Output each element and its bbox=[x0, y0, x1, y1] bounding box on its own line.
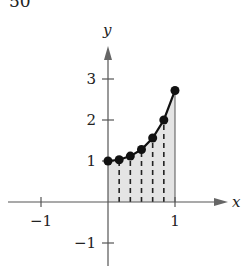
y-tick-label: 2 bbox=[86, 111, 96, 129]
y-tick-label: −1 bbox=[74, 234, 96, 252]
data-point-marker bbox=[115, 155, 124, 164]
data-point-marker bbox=[126, 152, 135, 161]
data-point-marker bbox=[137, 145, 146, 154]
y-axis-arrow-icon bbox=[104, 46, 112, 60]
x-axis-arrow-icon bbox=[214, 198, 228, 206]
y-tick-label: 3 bbox=[86, 70, 96, 88]
x-tick-label: 1 bbox=[170, 212, 180, 230]
y-axis-label: y bbox=[102, 21, 112, 39]
data-point-marker bbox=[104, 157, 113, 166]
chart: xy−11−1123 bbox=[0, 0, 248, 279]
x-tick-label: −1 bbox=[30, 212, 52, 230]
data-point-marker bbox=[159, 116, 168, 125]
x-axis-label: x bbox=[232, 193, 241, 211]
data-point-marker bbox=[171, 86, 180, 95]
data-point-marker bbox=[148, 134, 157, 143]
y-tick-label: 1 bbox=[86, 152, 96, 170]
